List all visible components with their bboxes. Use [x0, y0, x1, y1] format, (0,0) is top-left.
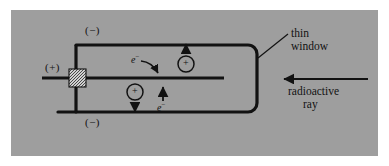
cathode-bottom-label: (−) [85, 117, 100, 129]
thin-window-leader-line [258, 34, 288, 58]
cathode-top-label: (−) [85, 25, 100, 37]
radioactive-ray-label-line1: radioactive [288, 85, 339, 97]
anode-label: (+) [45, 62, 60, 74]
ion-lower-label: + [132, 86, 138, 97]
figure-canvas: (−) (−) (+) thin window radioactive ray … [0, 0, 389, 166]
electron-upper-arrow [141, 61, 158, 73]
electron-lower-charge: − [161, 101, 165, 109]
electron-upper-charge: − [135, 53, 139, 61]
radioactive-ray-label-line2: ray [303, 98, 318, 110]
insulator-seal-box [69, 69, 86, 87]
electron-lower-label: e− [157, 102, 165, 114]
thin-window-label-line1: thin [291, 27, 309, 39]
thin-window-label-line2: window [291, 40, 328, 52]
diagram-vector-layer [0, 0, 389, 166]
electron-upper-label: e− [131, 54, 139, 66]
ion-upper-label: + [183, 58, 189, 69]
